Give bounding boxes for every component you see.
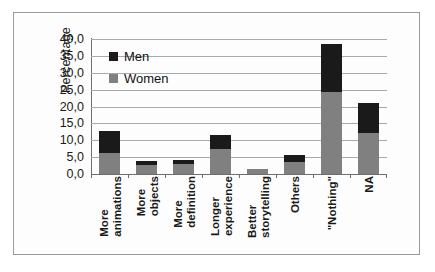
x-axis-label-text: Moreobjects xyxy=(134,176,159,216)
bar-segment-women[interactable] xyxy=(358,133,379,175)
x-axis-label: Betterstorytelling xyxy=(252,176,264,252)
bar-group[interactable] xyxy=(210,135,231,174)
gridline xyxy=(91,140,387,141)
y-axis-tick-label: 20,0 xyxy=(40,100,84,114)
x-axis-tick-labels: MoreanimationsMoreobjectsMoredefinitionL… xyxy=(91,176,387,252)
bar-segment-women[interactable] xyxy=(247,169,268,174)
x-axis-label-text: Moredefinition xyxy=(171,176,196,228)
bar-group[interactable] xyxy=(247,169,268,174)
gridline xyxy=(91,90,387,91)
bar-segment-men[interactable] xyxy=(358,103,379,132)
gridline xyxy=(91,157,387,158)
bar-segment-women[interactable] xyxy=(173,164,194,174)
x-axis-label: Moreanimations xyxy=(104,176,116,252)
y-axis-tick-labels: 40,035,030,025,020,015,010,05,00,0 xyxy=(38,39,84,174)
chart-legend: MenWomen xyxy=(109,49,169,86)
x-axis-label-text: Betterstorytelling xyxy=(245,176,270,238)
bar-segment-men[interactable] xyxy=(99,131,120,153)
x-axis-label-text: Moreanimations xyxy=(97,176,122,237)
y-axis-tick-label: 35,0 xyxy=(40,49,84,63)
y-axis-tick-label: 0,0 xyxy=(40,167,84,181)
bar-segment-women[interactable] xyxy=(99,153,120,174)
chart-container: Percentage 40,035,030,025,020,015,010,05… xyxy=(13,12,420,255)
x-axis-label: Longerexperience xyxy=(215,176,227,252)
y-axis-tick-label: 30,0 xyxy=(40,66,84,80)
bar-group[interactable] xyxy=(136,161,157,174)
bar-group[interactable] xyxy=(358,103,379,174)
gridline xyxy=(91,39,387,40)
legend-swatch-icon xyxy=(109,74,118,83)
x-axis-label-text: "Nothing" xyxy=(325,176,338,230)
gridline xyxy=(91,123,387,124)
bar-segment-women[interactable] xyxy=(321,92,342,174)
bar-segment-women[interactable] xyxy=(136,165,157,174)
legend-swatch-icon xyxy=(109,52,118,61)
legend-item-women[interactable]: Women xyxy=(109,71,169,86)
bar-group[interactable] xyxy=(284,155,305,174)
y-axis-tick-label: 5,0 xyxy=(40,150,84,164)
x-axis-label: Moreobjects xyxy=(141,176,153,252)
bar-segment-men[interactable] xyxy=(284,155,305,162)
bar-group[interactable] xyxy=(173,160,194,174)
y-axis-tick-label: 25,0 xyxy=(40,83,84,97)
bar-segment-women[interactable] xyxy=(284,162,305,174)
bar-group[interactable] xyxy=(321,44,342,174)
x-axis-label-text: Longerexperience xyxy=(208,176,233,236)
x-axis-label: NA xyxy=(363,176,375,252)
bar-segment-men[interactable] xyxy=(321,44,342,92)
x-axis-label-text: NA xyxy=(362,176,375,193)
legend-label: Women xyxy=(124,71,169,86)
bar-segment-women[interactable] xyxy=(210,149,231,174)
x-axis-label: "Nothing" xyxy=(326,176,338,252)
x-axis-label-text: Others xyxy=(288,176,301,213)
y-axis-tick-label: 40,0 xyxy=(40,32,84,46)
y-axis-tick-label: 10,0 xyxy=(40,133,84,147)
gridline xyxy=(91,107,387,108)
bar-group[interactable] xyxy=(99,131,120,174)
bar-segment-men[interactable] xyxy=(210,135,231,149)
x-axis-label: Others xyxy=(289,176,301,252)
y-axis-tick-label: 15,0 xyxy=(40,116,84,130)
legend-label: Men xyxy=(124,49,149,64)
legend-item-men[interactable]: Men xyxy=(109,49,169,64)
x-axis-label: Moredefinition xyxy=(178,176,190,252)
